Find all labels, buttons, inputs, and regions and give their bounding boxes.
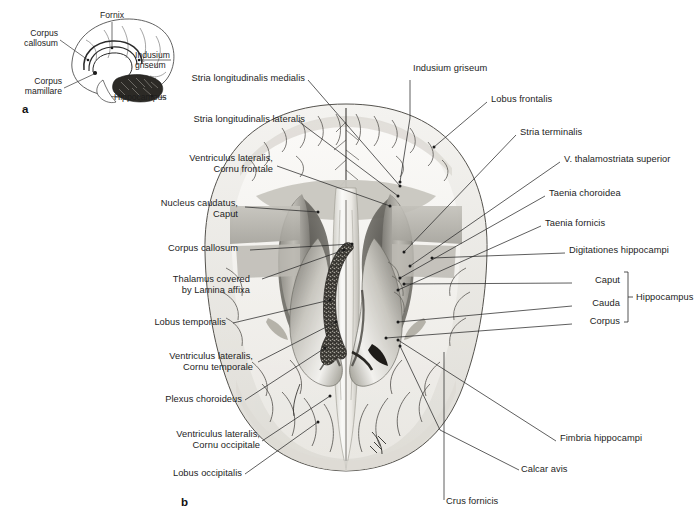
inset-label-hippocampus: Hippocampus bbox=[114, 92, 194, 102]
label-corpus-callosum: Corpus callosum bbox=[125, 243, 238, 254]
label-ventriculus-lateralis-cornu-occipitale: Ventriculus lateralis, Cornu occipitale bbox=[125, 429, 260, 452]
label-lobus-temporalis: Lobus temporalis bbox=[125, 317, 226, 328]
label-ventriculus-lateralis-cornu-temporale: Ventriculus lateralis, Cornu temporale bbox=[125, 351, 253, 374]
label-fimbria-hippocampi: Fimbria hippocampi bbox=[560, 433, 690, 444]
label-stria-terminalis: Stria terminalis bbox=[520, 127, 650, 138]
label-stria-longitudinalis-medialis: Stria longitudinalis medialis bbox=[125, 73, 305, 84]
label-hippocampus-caput: Caput bbox=[556, 275, 620, 286]
inset-label-corpus-mamillare: Corpus mamillare bbox=[0, 76, 62, 97]
label-lobus-occipitalis: Lobus occipitalis bbox=[125, 468, 242, 479]
inset-label-fornix: Fornix bbox=[84, 10, 140, 20]
label-stria-longitudinalis-lateralis: Stria longitudinalis lateralis bbox=[125, 114, 305, 125]
panel-letter-b: b bbox=[181, 496, 188, 508]
label-digitationes-hippocampi: Digitationes hippocampi bbox=[569, 245, 697, 256]
label-ventriculus-lateralis-cornu-frontale: Ventriculus lateralis, Cornu frontale bbox=[125, 153, 273, 176]
label-plexus-choroideus: Plexus choroideus bbox=[125, 394, 242, 405]
panel-letter-a: a bbox=[22, 103, 28, 115]
label-crus-fornicis: Crus fornicis bbox=[446, 496, 556, 507]
inset-label-corpus-callosum: Corpus callosum bbox=[0, 28, 58, 49]
label-hippocampus-corpus: Corpus bbox=[556, 316, 620, 327]
label-calcar-avis: Calcar avis bbox=[521, 464, 621, 475]
label-lobus-frontalis: Lobus frontalis bbox=[491, 94, 621, 105]
label-thalamus-covered-by-lamina-affixa: Thalamus covered by Lamina affixa bbox=[125, 274, 250, 297]
inset-label-indusium-griseum: Indusium griseum bbox=[135, 50, 197, 71]
label-hippocampus-group: Hippocampus bbox=[636, 292, 698, 303]
label-nucleus-caudatus-caput: Nucleus caudatus, Caput bbox=[125, 198, 238, 221]
label-v-thalamostriata-superior: V. thalamostriata superior bbox=[564, 154, 698, 165]
label-indusium-griseum: Indusium griseum bbox=[413, 63, 543, 74]
label-taenia-choroidea: Taenia choroidea bbox=[549, 188, 679, 199]
label-hippocampus-cauda: Cauda bbox=[556, 298, 620, 309]
label-taenia-fornicis: Taenia fornicis bbox=[545, 218, 675, 229]
